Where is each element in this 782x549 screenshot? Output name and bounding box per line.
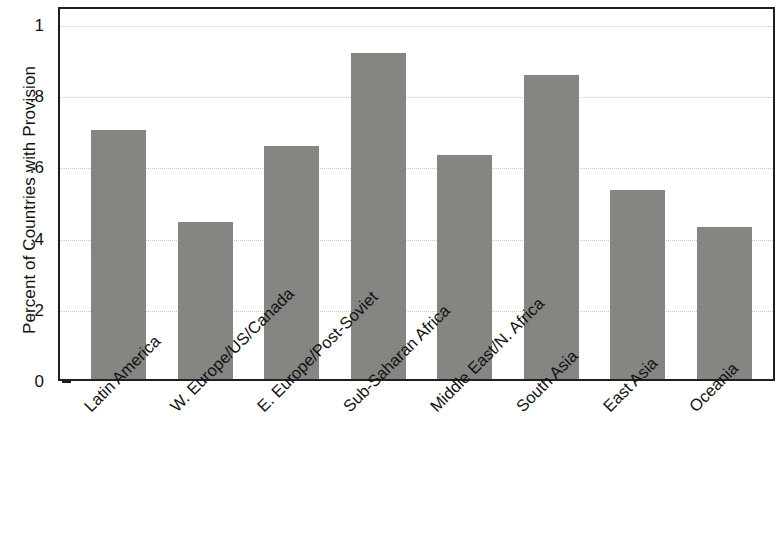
bar-chart-figure: Percent of Countries with Provision 0.2.… [0, 0, 782, 549]
y-axis-tick-label: .6 [18, 159, 44, 176]
gridline [60, 240, 773, 241]
bar [351, 53, 406, 379]
gridline [60, 168, 773, 169]
bar [524, 75, 579, 379]
y-axis-tick-label: 1 [18, 17, 44, 34]
gridline [60, 26, 773, 27]
x-axis-category-labels: Latin AmericaW. Europe/US/CanadaE. Europ… [0, 381, 782, 549]
bar [91, 130, 146, 379]
gridline [60, 97, 773, 98]
bar [697, 227, 752, 379]
gridline [60, 311, 773, 312]
y-axis-tick-label: .4 [18, 230, 44, 247]
y-axis-tick-label: .2 [18, 301, 44, 318]
y-axis-tick-label: .8 [18, 88, 44, 105]
bar [610, 190, 665, 379]
